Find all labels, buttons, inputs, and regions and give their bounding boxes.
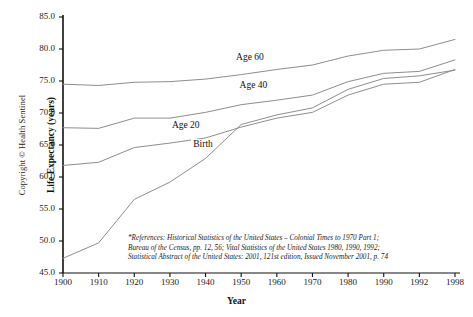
y-tick-label: 85.0 [25, 11, 55, 21]
series-line-age-60 [63, 39, 455, 85]
y-tick-label: 65.0 [25, 139, 55, 149]
life-expectancy-chart: Copyright © Health Sentinel Life Expecta… [0, 0, 473, 317]
x-axis-title: Year [0, 296, 473, 306]
y-tick-label: 50.0 [25, 235, 55, 245]
x-tick-label: 1992 [399, 277, 439, 287]
series-label-age-20: Age 20 [170, 120, 202, 130]
x-tick-label: 1970 [292, 277, 332, 287]
x-tick-label: 1920 [114, 277, 154, 287]
x-tick-label: 1960 [257, 277, 297, 287]
x-tick-label: 1980 [328, 277, 368, 287]
x-tick-label: 1940 [186, 277, 226, 287]
plot-area [0, 0, 473, 317]
series-line-birth [63, 70, 455, 258]
y-tick-label: 55.0 [25, 203, 55, 213]
series-line-age-40 [63, 60, 455, 128]
y-tick-label: 80.0 [25, 43, 55, 53]
y-tick-label: 75.0 [25, 75, 55, 85]
reference-footnote: *References: Historical Statistics of th… [128, 234, 458, 263]
x-tick-label: 1990 [364, 277, 404, 287]
y-tick-label: 60.0 [25, 171, 55, 181]
series-label-birth: Birth [191, 139, 215, 149]
series-label-age-60: Age 60 [234, 52, 266, 62]
x-tick-label: 1910 [79, 277, 119, 287]
x-tick-label: 1930 [150, 277, 190, 287]
x-tick-label: 1900 [43, 277, 83, 287]
y-tick-label: 70.0 [25, 107, 55, 117]
x-tick-label: 1950 [221, 277, 261, 287]
data-lines [63, 39, 455, 258]
reference-line: Statistical Abstract of the United State… [128, 253, 458, 263]
reference-line: *References: Historical Statistics of th… [128, 234, 458, 244]
y-tick-label: 45.0 [25, 267, 55, 277]
reference-line: Bureau of the Census, pp. 12, 56; Vital … [128, 244, 458, 254]
x-tick-label: 1998 [435, 277, 473, 287]
series-label-age-40: Age 40 [238, 80, 270, 90]
